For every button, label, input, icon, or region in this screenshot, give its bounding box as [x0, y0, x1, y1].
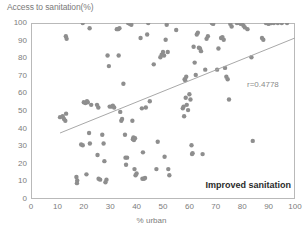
correlation-annotation: r=0.4778 [247, 80, 279, 89]
x-tick-label: 80 [228, 203, 256, 211]
x-axis-tick-labels: 0102030405060708090100 [0, 0, 303, 230]
x-tick-label: 100 [281, 203, 303, 211]
scatter-chart: Access to sanitation(%) 0102030405060708… [0, 0, 303, 230]
x-tick-label: 70 [202, 203, 230, 211]
x-tick-label: 20 [70, 203, 98, 211]
x-tick-label: 40 [123, 203, 151, 211]
x-tick-label: 60 [175, 203, 203, 211]
x-tick-label: 90 [255, 203, 283, 211]
x-tick-label: 10 [43, 203, 71, 211]
x-tick-label: 50 [149, 203, 177, 211]
x-axis-title: % urban [0, 216, 303, 225]
x-tick-label: 30 [96, 203, 124, 211]
x-tick-label: 0 [17, 203, 45, 211]
series-label: Improved sanitation [205, 180, 291, 190]
